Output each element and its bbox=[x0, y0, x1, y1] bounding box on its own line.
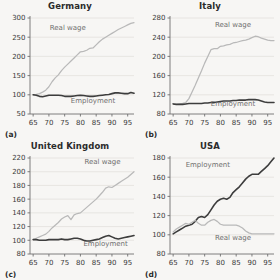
series-line bbox=[173, 158, 274, 234]
panel-label: (c) bbox=[5, 270, 16, 279]
panel-label: (b) bbox=[145, 130, 157, 139]
y-tick-label: 180 bbox=[152, 154, 165, 162]
panel-title: USA bbox=[140, 141, 280, 151]
x-tick-label: 80 bbox=[216, 119, 225, 127]
figure-panel-grid: Germany5010015020025030065707580859095Re… bbox=[0, 0, 280, 280]
series-annotation: Employment bbox=[211, 100, 256, 108]
y-tick-label: 80 bbox=[157, 250, 166, 258]
x-tick-label: 85 bbox=[92, 259, 101, 267]
y-tick-label: 200 bbox=[12, 53, 25, 61]
x-tick-label: 85 bbox=[232, 119, 241, 127]
chart-panel-italy: Italy8012016020024028065707580859095Real… bbox=[140, 0, 280, 140]
y-tick-label: 100 bbox=[152, 231, 165, 239]
series-annotation: Real wage bbox=[50, 24, 86, 32]
y-tick-label: 220 bbox=[12, 154, 25, 162]
panel-title: Italy bbox=[140, 1, 280, 11]
y-tick-label: 250 bbox=[12, 34, 25, 42]
chart-panel-germany: Germany5010015020025030065707580859095Re… bbox=[0, 0, 140, 140]
y-tick-label: 50 bbox=[17, 110, 26, 118]
series-line bbox=[33, 23, 134, 95]
x-tick-label: 70 bbox=[184, 259, 193, 267]
y-tick-label: 100 bbox=[12, 91, 25, 99]
x-tick-label: 80 bbox=[76, 119, 85, 127]
y-tick-label: 160 bbox=[12, 196, 25, 204]
x-tick-label: 65 bbox=[169, 259, 178, 267]
y-tick-label: 160 bbox=[152, 174, 165, 182]
panel-label: (a) bbox=[5, 130, 17, 139]
y-tick-label: 200 bbox=[12, 168, 25, 176]
x-tick-label: 95 bbox=[123, 119, 132, 127]
y-tick-label: 120 bbox=[152, 212, 165, 220]
y-tick-label: 180 bbox=[12, 182, 25, 190]
x-tick-label: 90 bbox=[107, 259, 116, 267]
x-tick-label: 75 bbox=[60, 119, 69, 127]
x-tick-label: 85 bbox=[232, 259, 241, 267]
x-tick-label: 90 bbox=[107, 119, 116, 127]
series-line bbox=[173, 219, 274, 233]
y-tick-label: 160 bbox=[152, 72, 165, 80]
chart-panel-united-kingdom: United Kingdom80100120140160180200220657… bbox=[0, 140, 140, 280]
series-line bbox=[33, 172, 134, 240]
chart-panel-usa: USA8010012014016018065707580859095Employ… bbox=[140, 140, 280, 280]
x-tick-label: 65 bbox=[169, 119, 178, 127]
x-tick-label: 70 bbox=[184, 119, 193, 127]
y-tick-label: 80 bbox=[17, 250, 26, 258]
x-tick-label: 90 bbox=[247, 119, 256, 127]
series-annotation: Employment bbox=[83, 240, 128, 248]
panel-title: Germany bbox=[0, 1, 140, 11]
x-tick-label: 80 bbox=[216, 259, 225, 267]
y-tick-label: 140 bbox=[12, 209, 25, 217]
x-tick-label: 70 bbox=[44, 259, 53, 267]
x-tick-label: 65 bbox=[29, 119, 38, 127]
y-tick-label: 200 bbox=[152, 53, 165, 61]
x-tick-label: 70 bbox=[44, 119, 53, 127]
x-tick-label: 75 bbox=[60, 259, 69, 267]
x-tick-label: 75 bbox=[200, 119, 209, 127]
y-tick-label: 80 bbox=[157, 110, 166, 118]
x-tick-label: 95 bbox=[263, 119, 272, 127]
x-tick-label: 90 bbox=[247, 259, 256, 267]
y-tick-label: 300 bbox=[12, 14, 25, 22]
y-tick-label: 280 bbox=[152, 14, 165, 22]
series-line bbox=[173, 36, 274, 104]
y-tick-label: 150 bbox=[12, 72, 25, 80]
series-annotation: Real wage bbox=[84, 158, 120, 166]
y-tick-label: 100 bbox=[12, 237, 25, 245]
y-tick-label: 240 bbox=[152, 34, 165, 42]
series-annotation: Employment bbox=[71, 97, 116, 105]
x-tick-label: 80 bbox=[76, 259, 85, 267]
x-tick-label: 95 bbox=[263, 259, 272, 267]
panel-title: United Kingdom bbox=[0, 141, 140, 151]
x-tick-label: 95 bbox=[123, 259, 132, 267]
panel-label: (d) bbox=[145, 270, 157, 279]
series-annotation: Real wage bbox=[215, 234, 251, 242]
series-annotation: Real wage bbox=[215, 21, 251, 29]
x-tick-label: 75 bbox=[200, 259, 209, 267]
x-tick-label: 85 bbox=[92, 119, 101, 127]
y-tick-label: 140 bbox=[152, 193, 165, 201]
y-tick-label: 120 bbox=[12, 223, 25, 231]
series-annotation: Employment bbox=[186, 161, 231, 169]
x-tick-label: 65 bbox=[29, 259, 38, 267]
y-tick-label: 120 bbox=[152, 91, 165, 99]
